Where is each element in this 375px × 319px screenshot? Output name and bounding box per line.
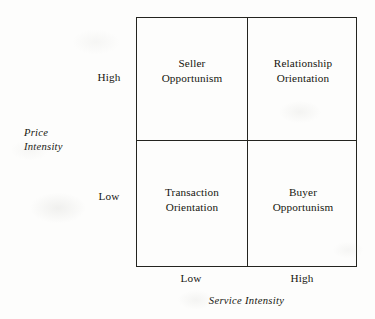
quadrant-seller-opportunism: Seller Opportunism — [137, 18, 247, 140]
x-axis-tick-low: Low — [136, 272, 246, 284]
quadrant-label-bottom-right: Buyer Opportunism — [273, 185, 334, 215]
y-axis-title: Price Intensity — [24, 126, 110, 155]
matrix-figure: Seller Opportunism Relationship Orientat… — [0, 0, 375, 319]
quadrant-relationship-orientation: Relationship Orientation — [248, 18, 358, 140]
quadrant-buyer-opportunism: Buyer Opportunism — [248, 141, 358, 268]
quadrant-label-top-left: Seller Opportunism — [162, 56, 223, 86]
quadrant-transaction-orientation: Transaction Orientation — [137, 141, 247, 268]
x-axis-title: Service Intensity — [136, 295, 357, 306]
x-axis-tick-high: High — [247, 272, 357, 284]
y-axis-tick-high: High — [86, 71, 132, 83]
quadrant-label-top-right: Relationship Orientation — [274, 56, 332, 86]
matrix-box: Seller Opportunism Relationship Orientat… — [136, 17, 357, 267]
quadrant-label-bottom-left: Transaction Orientation — [165, 185, 219, 215]
y-axis-tick-low: Low — [86, 190, 132, 202]
